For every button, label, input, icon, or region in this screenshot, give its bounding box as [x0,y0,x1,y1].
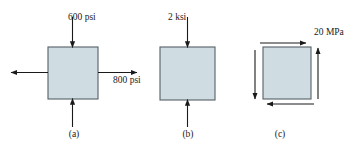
element-c-caption: (c) [258,130,302,140]
element-c-box [263,47,311,99]
element-c-shear-stress-label: 20 MPa [314,28,344,38]
stress-element-c: 20 MPa (c) [0,0,353,156]
stress-element-figure: 600 psi 800 psi (a) 2 ksi (b) 20 MPa (c) [0,0,353,156]
